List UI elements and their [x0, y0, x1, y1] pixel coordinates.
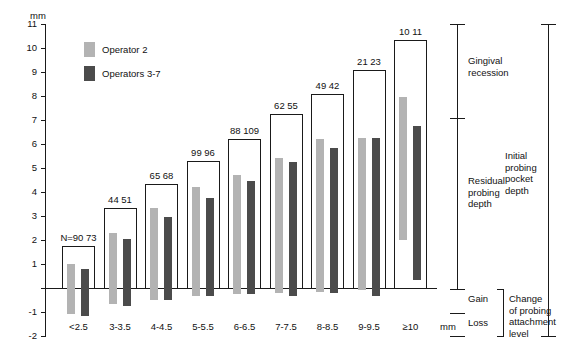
bar-operator-2 — [316, 139, 324, 291]
y-axis-tick — [41, 216, 46, 217]
y-axis-tick — [41, 264, 46, 265]
initial-depth-bracket-top — [541, 24, 556, 25]
bar-operators-3-7 — [81, 269, 89, 316]
y-axis-tick-label: 9 — [21, 67, 37, 76]
bar-operator-2 — [192, 187, 200, 296]
legend-swatch-operator-2 — [84, 42, 95, 57]
y-axis-tick — [41, 48, 46, 49]
bar-operators-3-7 — [330, 148, 338, 293]
y-axis-tick-label: -2 — [21, 331, 37, 340]
bracket-tick-recession-depth — [450, 118, 465, 119]
y-axis-tick-label: 11 — [21, 19, 37, 28]
bar-operator-2 — [150, 208, 158, 300]
bar-operators-3-7 — [289, 162, 297, 296]
y-axis-tick — [41, 96, 46, 97]
bracket-inner-vertical — [457, 24, 458, 290]
initial-depth-bracket-vertical — [548, 24, 549, 337]
y-axis-tick-label: -1 — [21, 307, 37, 316]
change-bracket-vertical — [503, 289, 504, 337]
bar-operator-2 — [358, 138, 366, 290]
legend-label-operator-2: Operator 2 — [102, 45, 147, 55]
change-bracket-bottom — [497, 336, 504, 337]
bar-operator-2 — [109, 233, 117, 304]
y-axis-tick — [41, 72, 46, 73]
bar-operator-2 — [275, 158, 283, 292]
bar-operators-3-7 — [206, 198, 214, 296]
bar-operators-3-7 — [123, 239, 131, 306]
bar-operator-2 — [233, 175, 241, 294]
legend-swatch-operators-3-7 — [84, 66, 95, 81]
y-axis-tick — [41, 168, 46, 169]
bar-operators-3-7 — [247, 181, 255, 294]
y-axis-tick-label: 6 — [21, 139, 37, 148]
x-axis-category-label: ≥10 — [384, 322, 437, 332]
bar-operator-2 — [399, 97, 407, 240]
bar-operators-3-7 — [372, 138, 380, 296]
bracket-tick-top — [450, 24, 465, 25]
annotation-residual-probing-depth: Residual probing depth — [468, 175, 505, 210]
annotation-initial-probing-pocket-depth: Initial probing pocket depth — [505, 150, 537, 196]
annotation-loss: Loss — [468, 317, 488, 329]
y-axis-tick-label: 5 — [21, 163, 37, 172]
y-axis-tick — [41, 312, 46, 313]
bracket-tick-bottom — [450, 336, 465, 337]
group-n-label: 10 11 — [372, 27, 449, 37]
legend-label-operators-3-7: Operators 3-7 — [102, 69, 161, 79]
change-bracket-top — [497, 289, 504, 290]
y-axis-tick — [41, 120, 46, 121]
probing-depth-chart: mm -2-11234567891011 Operator 2 Operator… — [0, 0, 570, 358]
y-axis-tick — [41, 192, 46, 193]
y-axis-tick-label: 3 — [21, 211, 37, 220]
bar-operator-2 — [67, 264, 75, 314]
initial-depth-bracket-bottom — [541, 336, 556, 337]
x-axis-unit-label: mm — [436, 322, 460, 332]
annotation-gingival-recession: Gingival recession — [468, 55, 509, 78]
y-axis-tick-label: 8 — [21, 91, 37, 100]
bracket-tick-gain-loss — [450, 313, 465, 314]
bracket-tick-zero — [450, 289, 465, 290]
y-axis-tick-label: 2 — [21, 235, 37, 244]
annotation-gain: Gain — [468, 293, 488, 305]
y-axis-tick-label: 1 — [21, 259, 37, 268]
bar-operators-3-7 — [413, 126, 421, 280]
bar-operators-3-7 — [164, 217, 172, 300]
y-axis-tick — [41, 144, 46, 145]
y-axis-tick — [41, 24, 46, 25]
y-axis-tick-label: 10 — [21, 43, 37, 52]
y-axis-tick — [41, 336, 46, 337]
y-axis-tick-label: 4 — [21, 187, 37, 196]
y-axis-tick-label: 7 — [21, 115, 37, 124]
